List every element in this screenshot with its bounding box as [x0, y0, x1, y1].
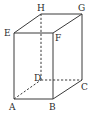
edge-FG [53, 14, 82, 33]
vertex-label-G: G [78, 3, 85, 13]
vertex-label-D: D [34, 73, 41, 83]
vertex-label-F: F [55, 33, 61, 43]
edge-HE [14, 14, 41, 33]
vertex-label-C: C [81, 82, 88, 92]
cuboid-figure: A B C D E F G H [0, 0, 92, 114]
vertex-label-H: H [37, 3, 45, 13]
cuboid-diagram: A B C D E F G H [0, 0, 92, 114]
vertex-label-A: A [8, 102, 16, 112]
vertex-label-E: E [4, 28, 11, 38]
vertex-label-B: B [49, 102, 56, 112]
edge-BC [53, 80, 82, 99]
